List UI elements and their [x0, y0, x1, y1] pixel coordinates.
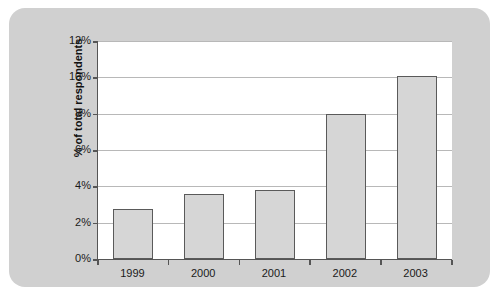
bar: [184, 194, 224, 259]
x-axis-tick-marks: [97, 260, 451, 266]
bar: [113, 209, 153, 259]
y-axis-tick-label: 2%: [75, 217, 91, 228]
x-axis-tick-mark: [168, 260, 170, 265]
y-axis-tick-label: 0%: [75, 253, 91, 264]
x-axis-tick-label: 2000: [168, 267, 239, 279]
x-axis-tick-mark: [380, 260, 382, 265]
plot-area: [97, 41, 452, 260]
bar: [397, 76, 437, 259]
y-axis-tick-label: 12%: [69, 35, 91, 46]
y-axis-tick-mark: [93, 223, 98, 225]
y-axis-tick-label: 6%: [75, 144, 91, 155]
x-axis-tick-label: 1999: [97, 267, 168, 279]
chart-figure: % of total respondents 0%2%4%6%8%10%12% …: [0, 0, 499, 295]
chart-panel: % of total respondents 0%2%4%6%8%10%12% …: [9, 8, 490, 287]
bar: [326, 114, 366, 259]
y-axis-tick-label: 10%: [69, 71, 91, 82]
x-axis-tick-label: 2002: [309, 267, 380, 279]
y-axis-tick-mark: [93, 41, 98, 43]
y-axis-tick-labels: 0%2%4%6%8%10%12%: [57, 41, 91, 259]
x-axis-tick-label: 2003: [380, 267, 451, 279]
y-axis-tick-mark: [93, 150, 98, 152]
x-axis-tick-mark: [451, 260, 453, 265]
y-axis-tick-mark: [93, 186, 98, 188]
y-axis-tick-label: 8%: [75, 108, 91, 119]
x-axis-tick-label: 2001: [239, 267, 310, 279]
x-axis-tick-labels: 19992000200120022003: [97, 267, 451, 283]
y-axis-tick-label: 4%: [75, 180, 91, 191]
gridline: [98, 41, 452, 42]
x-axis-tick-mark: [97, 260, 99, 265]
y-axis-tick-mark: [93, 114, 98, 116]
x-axis-tick-mark: [239, 260, 241, 265]
bar: [255, 190, 295, 259]
x-axis-tick-mark: [309, 260, 311, 265]
y-axis-tick-mark: [93, 77, 98, 79]
